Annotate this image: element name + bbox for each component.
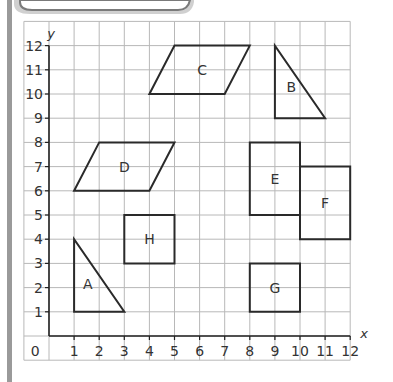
x-tick-label: 12 xyxy=(341,343,359,359)
y-tick-label: 3 xyxy=(34,255,43,271)
shape-label-c: C xyxy=(197,62,207,78)
x-axis-label: x xyxy=(359,326,368,341)
y-tick-label: 1 xyxy=(34,304,43,320)
shape-label-f: F xyxy=(321,195,329,211)
shape-label-e: E xyxy=(270,171,279,187)
x-tick-label: 8 xyxy=(245,343,254,359)
coordinate-grid-figure: ABCDEFGH 1234567891011121234567891011120… xyxy=(0,0,393,382)
x-tick-label: 1 xyxy=(70,343,79,359)
y-tick-label: 6 xyxy=(34,183,43,199)
x-tick-label: 7 xyxy=(220,343,229,359)
y-tick-label: 8 xyxy=(34,134,43,150)
y-tick-label: 2 xyxy=(34,280,43,296)
x-tick-label: 3 xyxy=(120,343,129,359)
shape-label-h: H xyxy=(144,231,155,247)
origin-label: 0 xyxy=(31,343,40,359)
shape-label-a: A xyxy=(83,276,93,292)
y-tick-label: 12 xyxy=(25,38,43,54)
y-tick-label: 9 xyxy=(34,110,43,126)
y-tick-label: 7 xyxy=(34,159,43,175)
x-tick-label: 6 xyxy=(195,343,204,359)
shape-label-b: B xyxy=(286,79,296,95)
x-tick-label: 10 xyxy=(291,343,309,359)
y-tick-label: 4 xyxy=(34,231,43,247)
left-border-bar xyxy=(7,0,12,382)
grid-lines xyxy=(24,21,350,360)
y-tick-label: 10 xyxy=(25,86,43,102)
x-tick-label: 2 xyxy=(95,343,104,359)
y-tick-label: 5 xyxy=(34,207,43,223)
x-tick-label: 5 xyxy=(170,343,179,359)
top-tab xyxy=(20,0,190,10)
x-tick-label: 9 xyxy=(270,343,279,359)
shape-label-g: G xyxy=(269,280,280,296)
x-tick-label: 4 xyxy=(145,343,154,359)
shapes: ABCDEFGH xyxy=(74,46,350,312)
y-tick-label: 11 xyxy=(25,62,43,78)
y-axis-label: y xyxy=(46,26,55,41)
x-tick-label: 11 xyxy=(316,343,334,359)
shape-label-d: D xyxy=(119,159,130,175)
